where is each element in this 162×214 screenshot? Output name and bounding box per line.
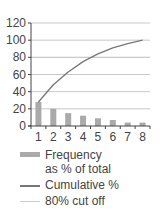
y-tick-label: 100 xyxy=(6,33,26,47)
y-tick-label: 80 xyxy=(13,50,27,64)
y-tick-label: 120 xyxy=(6,16,26,30)
x-tick-label: 2 xyxy=(50,130,57,144)
line-swatch-icon xyxy=(20,185,40,187)
bar xyxy=(110,120,116,126)
bar xyxy=(80,116,86,126)
chart-legend: Frequency as % of total Cumulative % 80%… xyxy=(20,148,119,210)
bar-swatch-icon xyxy=(20,152,40,157)
bar xyxy=(95,118,101,126)
bar xyxy=(140,123,146,126)
x-tick-label: 5 xyxy=(95,130,102,144)
pareto-chart: 02040608010012012345678 xyxy=(0,0,162,145)
legend-item-cumulative: Cumulative % xyxy=(20,178,119,192)
legend-label: Cumulative % xyxy=(45,178,119,192)
legend-item-cutoff: 80% cut off xyxy=(20,194,119,208)
bar xyxy=(65,113,71,126)
legend-label: 80% cut off xyxy=(45,194,105,208)
x-tick-label: 6 xyxy=(109,130,116,144)
legend-label: Frequency as % of total xyxy=(45,148,111,176)
bar xyxy=(50,109,56,126)
x-tick-label: 4 xyxy=(80,130,87,144)
bar xyxy=(35,102,41,126)
x-tick-label: 8 xyxy=(139,130,146,144)
x-tick-label: 7 xyxy=(124,130,131,144)
legend-item-frequency: Frequency as % of total xyxy=(20,148,119,176)
y-tick-label: 0 xyxy=(19,119,26,133)
y-tick-label: 20 xyxy=(13,102,27,116)
bar xyxy=(125,123,131,126)
cumulative-line xyxy=(38,40,142,102)
y-tick-label: 60 xyxy=(13,68,27,82)
x-tick-label: 1 xyxy=(35,130,42,144)
y-tick-label: 40 xyxy=(13,85,27,99)
cutoff-swatch-icon xyxy=(20,201,40,202)
x-tick-label: 3 xyxy=(65,130,72,144)
